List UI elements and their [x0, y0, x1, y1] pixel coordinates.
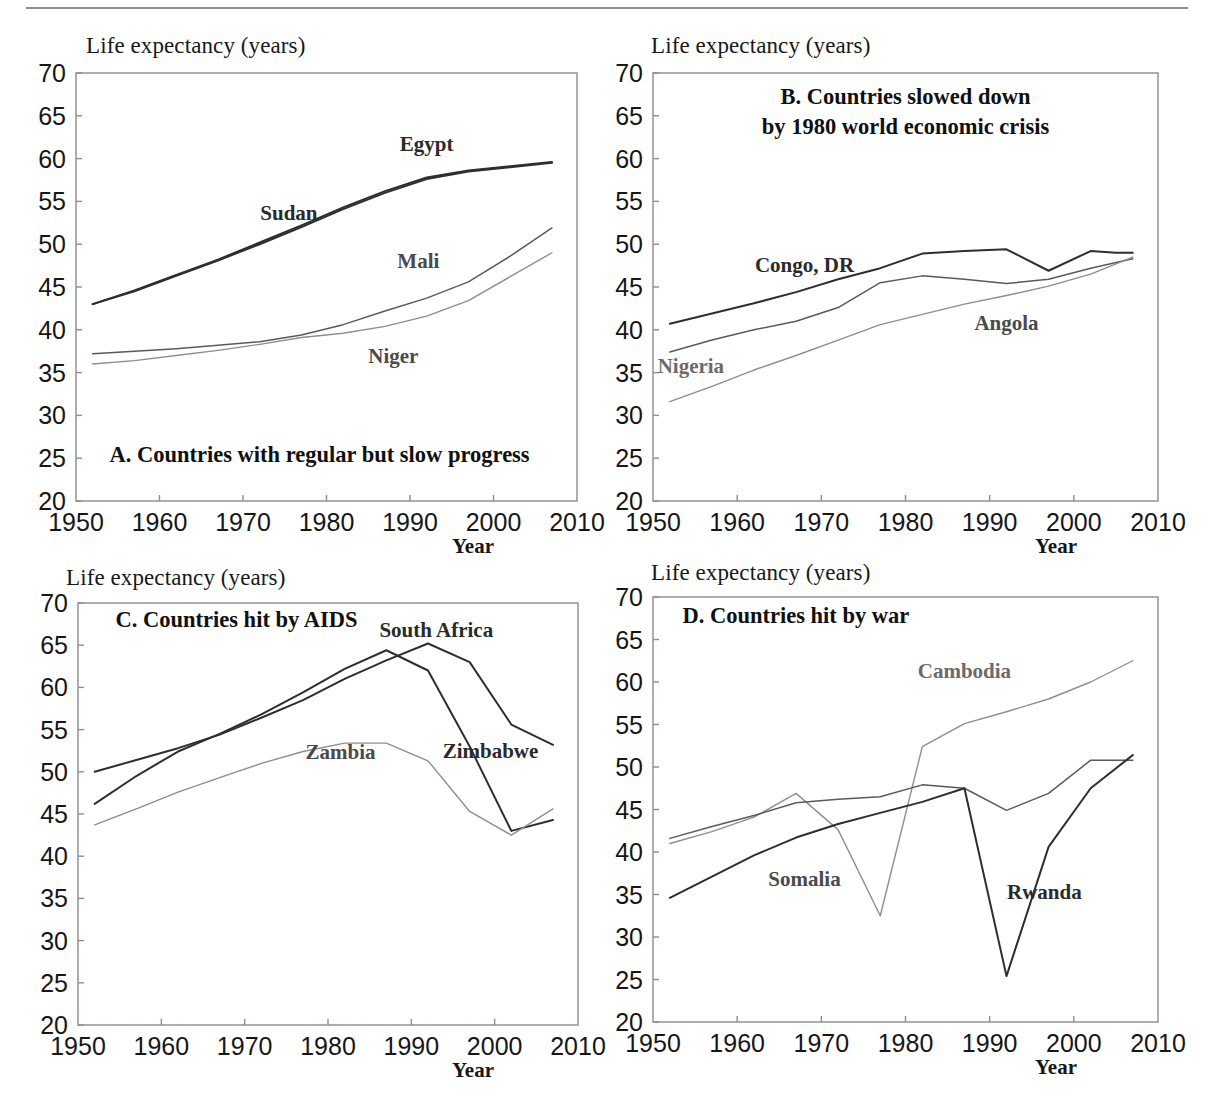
panel-B-x-axis-label: Year — [1035, 534, 1077, 559]
panel-D: Life expectancy (years)Year7065605550454… — [0, 0, 1212, 1111]
x-tick-label: 1990 — [962, 508, 1018, 536]
y-tick-label: 65 — [38, 102, 66, 130]
x-tick-label: 1990 — [382, 508, 438, 536]
series-annotation-niger: Niger — [368, 344, 418, 368]
y-tick-label: 30 — [615, 401, 643, 429]
x-tick-label: 1970 — [794, 508, 850, 536]
x-tick-label: 1960 — [132, 508, 188, 536]
y-tick-label: 25 — [615, 444, 643, 472]
panel-A-y-axis-title: Life expectancy (years) — [86, 33, 305, 59]
panel-B-y-axis-title: Life expectancy (years) — [651, 33, 870, 59]
y-tick-label: 20 — [615, 1008, 643, 1036]
x-tick-label: 1950 — [625, 508, 681, 536]
x-tick-label: 2000 — [467, 1032, 523, 1060]
panel-C-plot: 7065605550454035302520195019601970198019… — [0, 0, 1212, 1111]
y-tick-label: 60 — [38, 145, 66, 173]
series-annotation-south-africa: South Africa — [379, 618, 493, 642]
panel-A: Life expectancy (years)Year7065605550454… — [0, 0, 1212, 1111]
y-tick-label: 35 — [615, 881, 643, 909]
y-tick-label: 20 — [38, 487, 66, 515]
y-tick-label: 25 — [38, 444, 66, 472]
y-tick-label: 50 — [38, 230, 66, 258]
panel-A-x-axis-label: Year — [452, 534, 494, 559]
y-tick-label: 25 — [40, 969, 68, 997]
series-line-rwanda — [670, 755, 1133, 976]
x-tick-label: 2000 — [1046, 1029, 1102, 1057]
y-tick-label: 45 — [40, 800, 68, 828]
panel-C-caption: C. Countries hit by AIDS — [116, 607, 358, 632]
y-tick-label: 50 — [40, 758, 68, 786]
plot-frame — [78, 603, 578, 1025]
x-tick-label: 2010 — [1130, 1029, 1186, 1057]
x-tick-label: 2000 — [1046, 508, 1102, 536]
panel-D-caption: D. Countries hit by war — [682, 603, 909, 628]
series-annotation-sudan: Sudan — [260, 201, 318, 225]
y-tick-label: 35 — [38, 359, 66, 387]
y-tick-label: 50 — [615, 230, 643, 258]
x-tick-label: 1980 — [300, 1032, 356, 1060]
x-tick-label: 1980 — [878, 1029, 934, 1057]
series-line-nigeria — [670, 257, 1133, 402]
series-line-congo-dr — [670, 249, 1133, 323]
top-rule-divider — [26, 7, 1188, 9]
x-tick-label: 1950 — [50, 1032, 106, 1060]
series-line-angola — [670, 259, 1133, 352]
y-tick-label: 60 — [40, 673, 68, 701]
plot-frame — [653, 597, 1158, 1022]
panel-D-plot: 7065605550454035302520195019601970198019… — [0, 0, 1212, 1111]
plot-frame — [76, 73, 577, 501]
y-tick-label: 60 — [615, 668, 643, 696]
y-tick-label: 20 — [615, 487, 643, 515]
series-annotation-rwanda: Rwanda — [1007, 880, 1082, 904]
x-tick-label: 1990 — [962, 1029, 1018, 1057]
y-tick-label: 45 — [615, 273, 643, 301]
series-annotation-zimbabwe: Zimbabwe — [443, 739, 539, 763]
plot-frame — [653, 73, 1158, 501]
panel-D-x-axis-label: Year — [1035, 1055, 1077, 1080]
y-tick-label: 50 — [615, 753, 643, 781]
y-tick-label: 70 — [615, 583, 643, 611]
panel-A-plot: 7065605550454035302520195019601970198019… — [0, 0, 1212, 1111]
panel-A-caption: A. Countries with regular but slow progr… — [109, 442, 529, 467]
series-annotation-nigeria: Nigeria — [658, 354, 725, 378]
series-annotation-cambodia: Cambodia — [918, 659, 1012, 683]
series-annotation-angola: Angola — [974, 311, 1039, 335]
series-line-sudan — [93, 163, 552, 304]
x-tick-label: 2010 — [1130, 508, 1186, 536]
panel-C: Life expectancy (years)Year7065605550454… — [0, 0, 1212, 1111]
y-tick-label: 40 — [38, 316, 66, 344]
y-tick-label: 60 — [615, 145, 643, 173]
x-tick-label: 1960 — [709, 508, 765, 536]
y-tick-label: 40 — [615, 838, 643, 866]
y-tick-label: 70 — [40, 589, 68, 617]
y-tick-label: 65 — [615, 626, 643, 654]
series-line-somalia — [670, 760, 1133, 838]
x-tick-label: 2010 — [549, 508, 605, 536]
y-tick-label: 20 — [40, 1011, 68, 1039]
series-line-zimbabwe — [95, 650, 553, 831]
figure-sheet: Life expectancy (years)Year7065605550454… — [0, 0, 1212, 1111]
x-tick-label: 1950 — [625, 1029, 681, 1057]
panel-B: Life expectancy (years)Year7065605550454… — [0, 0, 1212, 1111]
y-tick-label: 45 — [38, 273, 66, 301]
y-tick-label: 45 — [615, 796, 643, 824]
x-tick-label: 1980 — [299, 508, 355, 536]
series-line-south-africa — [95, 644, 553, 772]
y-tick-label: 30 — [38, 401, 66, 429]
series-annotation-mali: Mali — [397, 249, 439, 273]
series-annotation-congo-dr: Congo, DR — [755, 253, 855, 277]
panel-D-y-axis-title: Life expectancy (years) — [651, 560, 870, 586]
x-tick-label: 1970 — [794, 1029, 850, 1057]
panel-C-y-axis-title: Life expectancy (years) — [66, 565, 285, 591]
series-annotation-zambia: Zambia — [305, 740, 376, 764]
series-line-zambia — [95, 743, 553, 835]
panel-C-x-axis-label: Year — [452, 1058, 494, 1083]
y-tick-label: 30 — [40, 927, 68, 955]
panel-B-plot: 7065605550454035302520195019601970198019… — [0, 0, 1212, 1111]
y-tick-label: 35 — [40, 884, 68, 912]
series-annotation-egypt: Egypt — [400, 132, 454, 156]
x-tick-label: 1980 — [878, 508, 934, 536]
y-tick-label: 70 — [615, 59, 643, 87]
y-tick-label: 35 — [615, 359, 643, 387]
x-tick-label: 1960 — [709, 1029, 765, 1057]
